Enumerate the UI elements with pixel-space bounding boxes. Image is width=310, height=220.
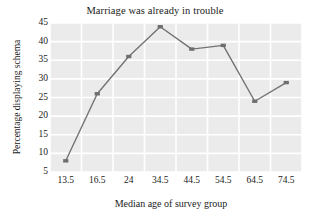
x-axis-tick-labels: 13.516.52434.544.554.564.574.5 bbox=[0, 0, 310, 220]
x-axis-title: Median age of survey group bbox=[40, 198, 302, 209]
chart-figure: Marriage was already in trouble Percenta… bbox=[0, 0, 310, 220]
x-tick-label: 74.5 bbox=[266, 176, 306, 186]
